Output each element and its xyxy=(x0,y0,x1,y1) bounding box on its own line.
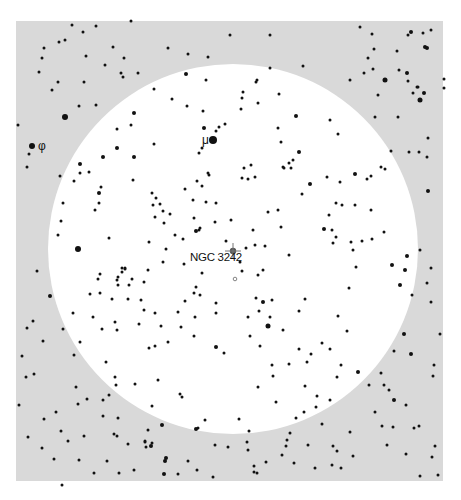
star xyxy=(443,87,446,90)
star xyxy=(430,301,433,304)
star xyxy=(154,312,157,315)
star xyxy=(409,30,413,34)
star xyxy=(180,326,183,329)
star xyxy=(241,270,244,273)
star xyxy=(153,143,156,146)
star xyxy=(43,418,46,421)
star xyxy=(253,471,256,474)
star xyxy=(164,456,168,460)
star xyxy=(278,93,281,96)
star xyxy=(193,217,196,220)
star xyxy=(198,229,201,232)
star xyxy=(267,211,270,214)
star xyxy=(41,447,44,450)
star xyxy=(297,150,301,154)
star xyxy=(199,294,202,297)
star xyxy=(392,426,395,429)
star xyxy=(315,406,318,409)
star xyxy=(183,263,186,266)
star xyxy=(123,57,126,60)
star xyxy=(229,34,232,37)
star xyxy=(269,67,272,70)
star xyxy=(73,354,76,357)
star xyxy=(283,167,286,170)
star xyxy=(335,236,338,239)
star-label-mu: μ xyxy=(202,133,209,147)
star xyxy=(114,321,117,324)
star xyxy=(262,269,265,272)
star xyxy=(99,273,102,276)
star xyxy=(122,76,125,79)
star xyxy=(241,177,244,180)
star xyxy=(58,41,61,44)
star xyxy=(326,176,329,179)
star xyxy=(212,476,215,479)
star xyxy=(247,316,250,319)
star xyxy=(253,465,256,468)
star xyxy=(205,79,208,82)
star xyxy=(95,104,98,107)
star xyxy=(275,401,278,404)
star xyxy=(201,185,204,188)
star xyxy=(225,240,228,243)
star xyxy=(196,180,199,183)
star xyxy=(181,396,184,399)
star xyxy=(302,65,305,68)
star xyxy=(439,333,442,336)
star xyxy=(71,24,74,27)
star xyxy=(396,50,399,53)
star xyxy=(215,302,218,305)
star xyxy=(402,332,406,336)
star xyxy=(281,454,284,457)
star xyxy=(430,267,433,270)
star xyxy=(162,261,165,264)
star xyxy=(350,241,353,244)
star xyxy=(314,467,317,470)
star xyxy=(73,180,76,183)
star xyxy=(132,111,136,115)
star xyxy=(282,329,285,332)
star xyxy=(113,433,116,436)
star xyxy=(265,461,268,464)
finder-chart: NGC 3242 μ φ xyxy=(0,0,461,500)
star xyxy=(26,327,29,330)
star xyxy=(61,484,64,487)
star xyxy=(117,417,120,420)
star xyxy=(78,162,82,166)
star xyxy=(316,395,319,398)
star xyxy=(157,379,160,382)
star xyxy=(257,274,260,277)
star xyxy=(266,324,271,329)
star xyxy=(78,459,81,462)
star xyxy=(321,423,324,426)
star xyxy=(101,328,104,331)
star xyxy=(149,444,153,448)
star xyxy=(38,71,41,74)
star xyxy=(182,238,185,241)
star xyxy=(214,444,217,447)
star xyxy=(202,126,206,130)
star xyxy=(25,376,28,379)
star xyxy=(193,335,196,338)
star xyxy=(383,231,386,234)
star xyxy=(371,238,374,241)
star xyxy=(32,320,35,323)
star xyxy=(193,292,196,295)
star xyxy=(72,312,75,315)
star xyxy=(254,244,257,247)
star xyxy=(62,114,68,120)
star xyxy=(98,202,101,205)
star xyxy=(392,398,396,402)
star xyxy=(443,78,446,81)
star xyxy=(288,162,291,165)
star xyxy=(280,226,283,229)
star xyxy=(100,186,103,189)
star xyxy=(179,393,182,396)
star xyxy=(321,342,324,345)
star xyxy=(174,234,177,237)
star xyxy=(148,347,151,350)
star xyxy=(288,254,291,257)
star xyxy=(162,472,166,476)
star xyxy=(256,472,259,475)
star xyxy=(197,427,200,430)
